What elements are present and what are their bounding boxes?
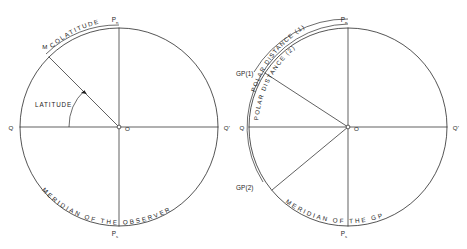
label-meridian-gp: MERIDIAN OF THE GP (285, 198, 385, 225)
gp-centre-point-marker (346, 125, 350, 129)
radius-to-gp2-line (272, 127, 348, 190)
gp-label-equator-left: Q (239, 124, 244, 131)
left-diagram-group: Pn Ps Q Q' M O COLATITUDE LATITUDE MERID… (8, 16, 230, 239)
latitude-angle-arc (69, 91, 85, 128)
label-latitude: LATITUDE (35, 101, 72, 108)
gp-label-centre-o: O (354, 125, 359, 132)
gp-label-pole-north: Pn (341, 16, 348, 25)
gp-label-equator-right: Q' (453, 124, 459, 131)
label-gp1: GP(1) (236, 70, 254, 78)
gp-label-pole-south: Ps (341, 230, 347, 239)
label-centre-o: O (125, 125, 130, 132)
figure-root: Pn Ps Q Q' M O COLATITUDE LATITUDE MERID… (0, 0, 467, 249)
label-meridian-observer: MERIDIAN OF THE OBSERVER (41, 186, 173, 226)
label-equator-right: Q' (224, 124, 230, 131)
label-colatitude: COLATITUDE (48, 18, 100, 49)
right-diagram-group: Pn Ps Q Q' GP(1) GP(2) O POLAR DISTANCE … (236, 16, 459, 239)
label-pole-south: Ps (112, 230, 118, 239)
centre-point-marker (117, 125, 121, 129)
label-gp2: GP(2) (236, 184, 254, 192)
label-equator-left: Q (8, 124, 13, 131)
label-pole-north: Pn (112, 16, 119, 25)
radius-to-gp1-line (265, 73, 348, 127)
diagram-canvas: Pn Ps Q Q' M O COLATITUDE LATITUDE MERID… (0, 0, 467, 249)
label-point-m: M (42, 43, 47, 50)
